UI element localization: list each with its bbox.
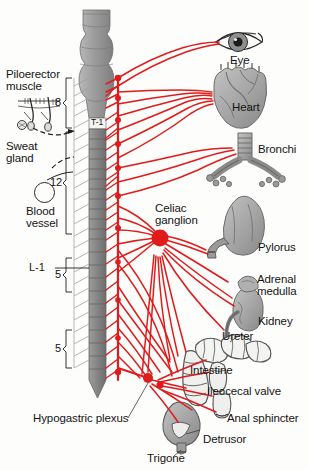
kidney-label: Kidney	[258, 315, 293, 327]
sympathetic-nervous-system-diagram: Piloerector muscle Sweat gland Blood ves…	[0, 0, 309, 470]
sacral-segment-count: 5	[55, 342, 61, 354]
intestine-label: Intestine	[190, 364, 233, 376]
adrenal-medulla-label: Adrenal medulla	[257, 273, 297, 298]
lumbar-start-label: L-1	[29, 261, 45, 273]
ileocecal-valve-label: Ileocecal valve	[207, 385, 281, 397]
piloerector-muscle-label: Piloerector muscle	[6, 68, 60, 93]
lumbar-segment-count: 5	[55, 268, 61, 280]
ureter-label: Ureter	[222, 330, 253, 342]
anal-sphincter-label: Anal sphincter	[227, 412, 298, 424]
celiac-ganglion-label: Celiac ganglion	[155, 202, 198, 227]
detrusor-label: Detrusor	[203, 433, 246, 445]
pylorus-label: Pylorus	[258, 241, 296, 253]
cervical-segment-count: 8	[55, 96, 61, 108]
blood-vessel-label: Blood vessel	[26, 205, 58, 230]
trigone-label: Trigone	[147, 452, 185, 464]
thoracic-start-label: T-1	[91, 117, 103, 127]
heart-label: Heart	[232, 101, 260, 113]
thoracic-segment-count: 12	[50, 176, 62, 188]
bronchi-label: Bronchi	[258, 143, 296, 155]
hypogastric-plexus-label: Hypogastric plexus	[33, 412, 128, 424]
eye-label: Eye	[230, 54, 250, 66]
sweat-gland-label: Sweat gland	[6, 140, 37, 165]
